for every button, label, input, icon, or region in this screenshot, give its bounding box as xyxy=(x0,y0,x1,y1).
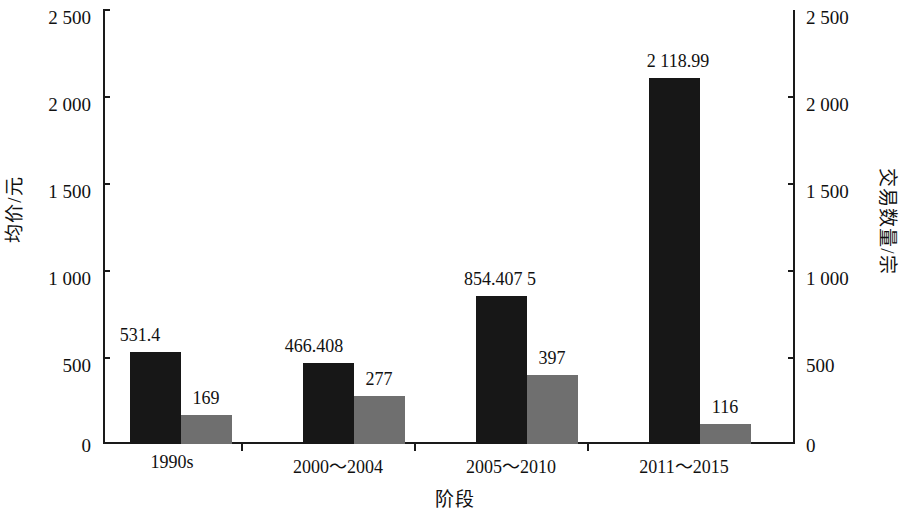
x-axis-tick-3 xyxy=(587,444,589,451)
x-axis-category-2011-2015: 2011～2015 xyxy=(614,452,754,478)
value-label-count-1990s: 169 xyxy=(156,389,256,407)
y2-axis-label-0: 0 xyxy=(806,436,816,455)
y2-axis-label-2500: 2 500 xyxy=(806,8,849,27)
value-label-price-2011-2015: 2 118.99 xyxy=(608,52,748,70)
y2-axis-label-1500: 1 500 xyxy=(806,182,849,201)
x-axis-tick-2 xyxy=(414,444,416,451)
y2-axis-label-500: 500 xyxy=(806,356,835,375)
y-axis-label-1000: 1 000 xyxy=(48,269,91,288)
value-label-count-2000-2004: 277 xyxy=(329,370,429,388)
x-axis-category-2000-2004: 2000～2004 xyxy=(268,452,408,478)
y-axis-label-0: 0 xyxy=(82,436,92,455)
x-axis-tick-1 xyxy=(241,444,243,451)
bar-chart: 2 500 2 000 1 500 1 000 500 0 2 500 2 00… xyxy=(0,0,910,514)
bar-price-2011-2015 xyxy=(649,78,700,444)
y-axis-label-500: 500 xyxy=(63,356,92,375)
bar-count-2011-2015 xyxy=(700,424,751,444)
y2-axis-title: 交易数量/宗 xyxy=(876,167,903,277)
y-axis-label-2000: 2 000 xyxy=(48,95,91,114)
value-label-price-2005-2010: 854.407 5 xyxy=(420,270,580,288)
bar-count-2000-2004 xyxy=(354,396,405,444)
bar-count-2005-2010 xyxy=(527,375,578,444)
bar-price-2005-2010 xyxy=(476,296,527,444)
value-label-price-2000-2004: 466.408 xyxy=(254,337,374,355)
value-label-count-2011-2015: 116 xyxy=(675,398,775,416)
x-axis-title: 阶段 xyxy=(0,484,910,511)
y2-axis-label-2000: 2 000 xyxy=(806,95,849,114)
x-axis-category-1990s: 1990s xyxy=(112,452,232,473)
y-axis-label-1500: 1 500 xyxy=(48,182,91,201)
y-axis-tick-2500 xyxy=(103,9,110,11)
value-label-price-1990s: 531.4 xyxy=(90,326,190,344)
y2-axis-label-1000: 1 000 xyxy=(806,269,849,288)
bars-layer xyxy=(105,12,793,444)
x-axis-category-2005-2010: 2005～2010 xyxy=(441,452,581,478)
y-axis-label-2500: 2 500 xyxy=(48,8,91,27)
y-axis-title: 均价/元 xyxy=(0,160,26,260)
value-label-count-2005-2010: 397 xyxy=(502,349,602,367)
bar-count-1990s xyxy=(181,415,232,444)
